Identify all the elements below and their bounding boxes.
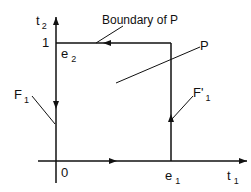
vertex-e1-label: e1: [165, 168, 180, 186]
region-label: P: [200, 38, 209, 53]
boundary-leader: [96, 26, 123, 43]
right-face-label: F'1: [193, 85, 210, 103]
polytope-boundary-diagram: t2 1 e2 Boundary of P P F1 F'1 0 e1 t1: [0, 0, 251, 192]
bottom-edge-arrow-right-icon: [109, 158, 117, 164]
left-face-label: F1: [14, 87, 29, 105]
origin-label: 0: [61, 165, 68, 180]
left-edge-arrow-down-icon: [53, 101, 59, 109]
right-face-leader: [172, 96, 193, 119]
x-axis-label: t1: [227, 168, 239, 186]
left-face-leader: [32, 96, 55, 124]
top-edge-arrow-left-icon: [103, 40, 111, 46]
y-tick-label: 1: [42, 35, 49, 50]
y-axis-label: t2: [36, 13, 47, 31]
region-leader: [116, 47, 200, 83]
boundary-label: Boundary of P: [102, 13, 178, 27]
vertex-e2-label: e2: [61, 46, 76, 64]
